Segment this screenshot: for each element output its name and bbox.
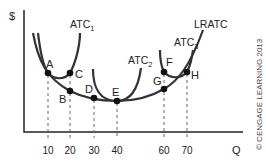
tick-10: 10 (42, 145, 54, 156)
label-b: B (59, 93, 66, 105)
point-c (67, 70, 74, 77)
label-h: H (191, 69, 199, 81)
atc1-label: ATC1 (70, 18, 94, 33)
point-f (161, 69, 168, 76)
label-f: F (166, 56, 173, 68)
atc3-label: ATC3 (174, 36, 198, 51)
label-g: G (153, 75, 162, 87)
label-d: D (85, 83, 93, 95)
tick-20: 20 (64, 145, 76, 156)
copyright-notice: © CENGAGE LEARNING 2013 (255, 39, 264, 150)
point-b (67, 88, 74, 95)
y-axis-label: $ (9, 10, 15, 22)
label-e: E (112, 86, 119, 98)
tick-30: 30 (88, 145, 100, 156)
atc2-label: ATC2 (128, 54, 152, 69)
point-a (45, 70, 52, 77)
guide-lines (48, 74, 187, 138)
tick-60: 60 (158, 145, 170, 156)
point-d (91, 95, 98, 102)
point-e (114, 98, 121, 105)
tick-70: 70 (181, 145, 193, 156)
tick-40: 40 (111, 145, 123, 156)
point-h (184, 69, 191, 76)
cost-curves-chart: A C B D E G F H ATC1 ATC2 ATC3 LRATC $ Q… (0, 0, 266, 165)
label-c: C (75, 68, 83, 80)
x-axis-label: Q (232, 144, 241, 156)
point-g (161, 86, 168, 93)
atc1-curve (38, 33, 80, 78)
label-a: A (46, 58, 54, 70)
lratc-label: LRATC (194, 18, 228, 30)
